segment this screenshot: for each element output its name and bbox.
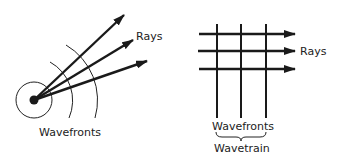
wavetrain-label: Wavetrain <box>214 142 270 155</box>
rays-label-left: Rays <box>136 30 163 43</box>
rays-label-right: Rays <box>300 45 327 58</box>
ray-arrow-upper <box>34 15 124 100</box>
plane-wave-diagram: Rays Wavefronts Wavetrain <box>198 24 327 155</box>
wavefronts-label-right: Wavefronts <box>212 120 274 133</box>
spherical-wave-diagram: Rays Wavefronts <box>16 15 163 139</box>
wavefronts-label-left: Wavefronts <box>39 126 101 139</box>
point-source-dot <box>30 96 39 105</box>
wavetrain-brace <box>216 132 266 141</box>
wave-diagram: Rays Wavefronts Rays Wavefronts Wavetrai… <box>0 0 338 163</box>
